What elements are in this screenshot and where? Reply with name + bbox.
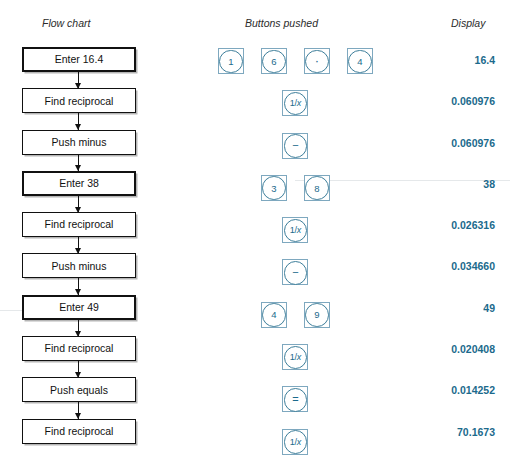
flow-arrow-down-icon	[78, 278, 79, 294]
display-value: 70.1673	[457, 426, 495, 438]
calc-button-glyph: 1/x	[290, 99, 301, 108]
display-row: 0.060976	[395, 130, 507, 171]
calc-button-4[interactable]: 4	[261, 302, 287, 328]
calc-button-glyph: 1/x	[290, 226, 301, 235]
calc-button-9[interactable]: 9	[304, 302, 330, 328]
calc-button-decimal-point[interactable]: ·	[304, 48, 330, 74]
calc-button-circle: 1/x	[284, 92, 308, 116]
calc-button-glyph: 1	[228, 57, 233, 67]
calc-button-glyph: −	[292, 140, 298, 151]
calc-button-4[interactable]: 4	[347, 48, 373, 74]
calc-button-glyph: ·	[315, 54, 319, 67]
calc-button-8[interactable]: 8	[304, 175, 330, 201]
calc-button-circle: 3	[262, 176, 286, 200]
calc-button-circle: 9	[305, 303, 329, 327]
display-row: 38	[395, 171, 507, 212]
calc-button-glyph: =	[292, 394, 298, 405]
display-value: 0.060976	[451, 95, 495, 107]
calc-button-circle: −	[284, 134, 308, 158]
calc-button-glyph: 4	[271, 310, 276, 320]
flow-arrow-down-icon	[78, 155, 79, 171]
calc-button-circle: =	[284, 388, 308, 412]
display-value: 0.014252	[451, 384, 495, 396]
flow-chart-box: Push minus	[22, 253, 136, 278]
flow-chart-box-label: Find reciprocal	[45, 96, 114, 107]
display-row: 0.020408	[395, 336, 507, 377]
flow-chart-step: Find reciprocal	[22, 212, 140, 253]
flow-arrow-down-icon	[78, 361, 79, 377]
buttons-pushed-row: 16·4	[180, 47, 410, 89]
buttons-pushed-row: −	[180, 132, 410, 174]
flow-arrow-down-icon	[78, 320, 79, 336]
calc-button-circle: 4	[348, 50, 372, 74]
flow-chart-step: Enter 16.4	[22, 47, 140, 88]
calc-button-reciprocal[interactable]: 1/x	[282, 90, 308, 116]
display-row: 0.034660	[395, 253, 507, 294]
calc-button-circle: 1/x	[284, 430, 308, 454]
calc-button-circle: 6	[262, 50, 286, 74]
buttons-pushed-row: −	[180, 258, 410, 300]
calc-button-glyph: 1/x	[290, 353, 301, 362]
calc-button-glyph: −	[292, 267, 298, 278]
calc-button-glyph: 3	[271, 184, 276, 194]
flow-arrow-down-icon	[78, 237, 79, 253]
display-row: 16.4	[395, 47, 507, 88]
calc-button-circle: ·	[305, 50, 329, 74]
display-value: 0.060976	[451, 137, 495, 149]
calc-button-minus[interactable]: −	[282, 133, 308, 159]
calc-button-glyph: 6	[271, 57, 276, 67]
calc-button-1[interactable]: 1	[218, 48, 244, 74]
flow-chart-step: Find reciprocal	[22, 419, 140, 460]
calc-button-circle: 8	[305, 176, 329, 200]
flow-chart-box-label: Push minus	[52, 137, 107, 148]
buttons-pushed-row: 49	[180, 301, 410, 343]
display-row: 0.014252	[395, 377, 507, 418]
flow-chart-box-label: Push minus	[52, 261, 107, 272]
flow-chart-step: Push minus	[22, 253, 140, 294]
buttons-pushed-row: 38	[180, 174, 410, 216]
calc-button-circle: 1/x	[284, 346, 308, 370]
flow-arrow-down-icon	[78, 196, 79, 212]
calc-button-6[interactable]: 6	[261, 48, 287, 74]
calc-button-circle: −	[284, 261, 308, 285]
flow-chart-box: Find reciprocal	[22, 419, 136, 444]
flow-chart-box: Push minus	[22, 130, 136, 155]
flow-chart-box: Find reciprocal	[22, 212, 136, 237]
calc-button-glyph: 4	[357, 57, 362, 67]
buttons-pushed-row: 1/x	[180, 216, 410, 258]
calc-button-minus[interactable]: −	[282, 259, 308, 285]
flow-chart-box: Push equals	[22, 377, 136, 402]
display-value: 16.4	[475, 54, 495, 66]
flow-chart-box: Enter 38	[22, 171, 136, 196]
flow-chart-box: Enter 49	[22, 295, 136, 320]
calc-button-3[interactable]: 3	[261, 175, 287, 201]
calc-button-circle: 4	[262, 303, 286, 327]
flow-chart-step: Enter 49	[22, 295, 140, 336]
display-value: 49	[483, 302, 495, 314]
column-header-flow-chart: Flow chart	[42, 17, 90, 29]
flow-chart-box-label: Enter 16.4	[55, 54, 103, 65]
flow-arrow-down-icon	[78, 72, 79, 88]
flow-chart-box-label: Find reciprocal	[45, 426, 114, 437]
calc-button-reciprocal[interactable]: 1/x	[282, 217, 308, 243]
calc-button-reciprocal[interactable]: 1/x	[282, 429, 308, 455]
flow-chart-box-label: Find reciprocal	[45, 219, 114, 230]
flow-chart-box: Find reciprocal	[22, 88, 136, 113]
flow-arrow-down-icon	[78, 402, 79, 418]
display-row: 49	[395, 295, 507, 336]
display-value: 0.034660	[451, 260, 495, 272]
flow-chart-box-label: Push equals	[50, 385, 108, 396]
flow-chart-step: Push equals	[22, 377, 140, 418]
flow-chart-box: Enter 16.4	[22, 47, 136, 72]
calc-button-glyph: 9	[314, 310, 319, 320]
flow-chart-box-label: Find reciprocal	[45, 343, 114, 354]
display-row: 0.026316	[395, 212, 507, 253]
calc-button-glyph: 8	[314, 184, 319, 194]
calc-button-reciprocal[interactable]: 1/x	[282, 344, 308, 370]
buttons-pushed-row: =	[180, 385, 410, 427]
display-column: 16.40.0609760.060976380.0263160.03466049…	[395, 47, 507, 460]
flow-chart-step: Push minus	[22, 130, 140, 171]
flow-chart-box-label: Enter 49	[59, 302, 99, 313]
calc-button-equals[interactable]: =	[282, 386, 308, 412]
flow-chart-step: Find reciprocal	[22, 336, 140, 377]
